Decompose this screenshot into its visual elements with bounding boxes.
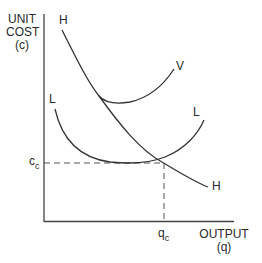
cc-label: cc bbox=[29, 155, 40, 169]
curve-l-label-start: L bbox=[49, 93, 56, 106]
y-axis-label: UNIT COST (c) bbox=[6, 13, 38, 52]
diagram-canvas bbox=[0, 0, 262, 263]
y-label-line-3: (c) bbox=[6, 39, 38, 52]
curve-v-label: V bbox=[176, 60, 184, 73]
curve-l-label-end: L bbox=[193, 106, 200, 119]
curve-v bbox=[99, 69, 174, 103]
curve-h-label-start: H bbox=[59, 14, 68, 27]
curve-l bbox=[55, 109, 204, 163]
qc-label: qc bbox=[158, 227, 169, 241]
curve-h-label-end: H bbox=[212, 180, 221, 193]
x-axis-label: OUTPUT (q) bbox=[199, 228, 249, 254]
cost-curve-diagram: UNIT COST (c) H H V L L cc qc OUTPUT (q) bbox=[0, 0, 262, 263]
x-label-line-2: (q) bbox=[199, 241, 249, 254]
